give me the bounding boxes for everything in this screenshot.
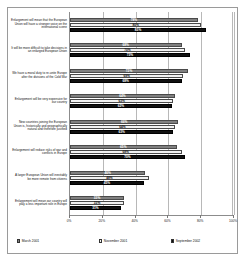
bar-group: 68%70%73%: [70, 38, 233, 64]
bar-value-label: 68%: [123, 79, 129, 84]
x-tick-label: 0%: [67, 219, 72, 223]
category-label-column: Enlargement will mean that the European …: [11, 12, 69, 216]
bar-value-label: 62%: [118, 104, 124, 109]
bar-value-label: 83%: [135, 28, 141, 33]
bar-group: 33%33%31%: [70, 191, 233, 217]
bar-group: 72%69%68%: [70, 63, 233, 89]
legend-swatch: [17, 239, 20, 242]
bar-value-label: 45%: [104, 181, 110, 186]
tick-mark: [200, 215, 201, 218]
bar-value-label: 70%: [124, 155, 130, 160]
legend-swatch: [171, 239, 174, 242]
legend-label: September 2002: [176, 239, 200, 243]
bar-value-label: 73%: [127, 53, 133, 58]
bar-group: 46%48%45%: [70, 165, 233, 191]
chart-legend: March 2001November 2001September 2002: [11, 236, 234, 250]
legend-label: November 2001: [104, 239, 127, 243]
gridline: [234, 12, 235, 215]
bar-group: 66%64%63%: [70, 114, 233, 140]
category-label: New countries joining the European Union…: [11, 121, 67, 132]
legend-swatch: [99, 239, 102, 242]
x-tick-label: 20%: [99, 219, 105, 223]
tick-mark: [102, 215, 103, 218]
tick-mark: [69, 215, 70, 218]
x-axis-ticks: 0%20%40%60%80%100%: [69, 217, 233, 227]
tick-mark: [167, 215, 168, 218]
bar-group: 65%68%70%: [70, 140, 233, 166]
category-label: Enlargement will mean our country will p…: [11, 200, 67, 207]
category-label: It will be more difficult to take decisi…: [11, 47, 67, 54]
chart-frame: Enlargement will mean that the European …: [7, 7, 238, 254]
tick-mark: [233, 215, 234, 218]
chart-plot-wrapper: Enlargement will mean that the European …: [11, 12, 234, 234]
category-label: Enlargement will reduce risks of war and…: [11, 149, 67, 156]
legend-item[interactable]: September 2002: [171, 239, 200, 243]
legend-item[interactable]: March 2001: [17, 239, 39, 243]
category-label: We have a moral duty to re-unite Europe …: [11, 72, 67, 79]
category-label: Enlargement will mean that the European …: [11, 19, 67, 30]
plot-area: 78%80%83%68%70%73%72%69%68%64%63%62%66%6…: [69, 12, 233, 216]
legend-label: March 2001: [22, 239, 39, 243]
category-label: Enlargement will be very expensive for o…: [11, 98, 67, 105]
category-label: A larger European Union will inevitably …: [11, 174, 67, 181]
x-tick-label: 100%: [229, 219, 237, 223]
x-tick-label: 60%: [164, 219, 170, 223]
bar-group: 78%80%83%: [70, 12, 233, 38]
tick-mark: [135, 215, 136, 218]
x-tick-label: 80%: [197, 219, 203, 223]
legend-item[interactable]: November 2001: [99, 239, 127, 243]
bar-value-label: 63%: [118, 130, 124, 135]
x-tick-label: 40%: [131, 219, 137, 223]
bar-group: 64%63%62%: [70, 89, 233, 115]
bar-value-label: 31%: [92, 206, 98, 211]
